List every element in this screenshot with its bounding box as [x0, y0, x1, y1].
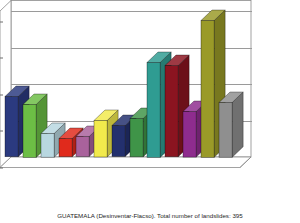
bar	[201, 20, 214, 157]
bar	[94, 121, 107, 158]
bar	[130, 119, 143, 157]
bar	[183, 111, 196, 157]
bar	[5, 97, 18, 157]
bar-solid	[219, 90, 245, 157]
bar	[165, 66, 178, 157]
bar	[76, 137, 89, 157]
bar	[112, 126, 125, 157]
bar	[59, 139, 72, 157]
bar-series	[0, 0, 252, 168]
bar	[41, 133, 54, 157]
bar	[23, 104, 36, 157]
bar	[219, 102, 232, 157]
footer-caption: GUATEMALA (Desinventar-Flacso). Total nu…	[0, 212, 300, 219]
bar	[147, 62, 160, 157]
chart-figure: Temporal distribution of landslides No d…	[0, 0, 300, 223]
